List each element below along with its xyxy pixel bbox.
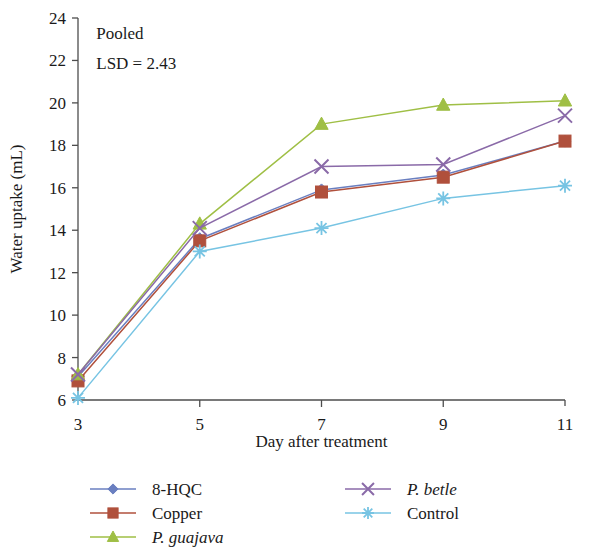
asterisk-shape bbox=[71, 391, 85, 405]
triangle-marker bbox=[558, 94, 571, 106]
y-tick-label-6: 6 bbox=[58, 391, 67, 410]
legend-label: P. betle bbox=[406, 480, 457, 499]
legend-label: 8-HQC bbox=[152, 480, 202, 499]
y-tick-label-10: 10 bbox=[49, 306, 66, 325]
asterisk-shape bbox=[558, 179, 572, 193]
legend-label: Control bbox=[407, 504, 459, 523]
series-p-guajava bbox=[71, 94, 571, 380]
square-marker bbox=[437, 171, 449, 183]
series-p-betle bbox=[71, 109, 572, 382]
line-chart-plot: 681012141618202224357911 PooledLSD = 2.4… bbox=[0, 0, 601, 550]
series-line bbox=[78, 186, 565, 398]
y-tick-label-16: 16 bbox=[49, 179, 66, 198]
annotation-text-1: LSD = 2.43 bbox=[96, 54, 176, 73]
axes-group: 681012141618202224357911 bbox=[49, 9, 573, 434]
cross-marker bbox=[558, 109, 572, 123]
cross-shape bbox=[558, 109, 572, 123]
series-line bbox=[78, 101, 565, 375]
y-tick-label-20: 20 bbox=[49, 94, 66, 113]
series-line bbox=[78, 141, 565, 377]
asterisk-marker bbox=[436, 191, 450, 205]
x-tick-label-11: 11 bbox=[557, 415, 573, 434]
asterisk-shape bbox=[193, 244, 207, 258]
square-shape bbox=[437, 171, 449, 183]
series-8-hqc bbox=[72, 135, 571, 383]
legend-item-p-guajava[interactable]: P. guajava bbox=[90, 528, 223, 547]
asterisk-marker bbox=[362, 507, 374, 519]
y-tick-label-14: 14 bbox=[49, 221, 67, 240]
legend-item-control[interactable]: Control bbox=[345, 504, 459, 523]
triangle-shape bbox=[558, 94, 571, 106]
asterisk-shape bbox=[436, 191, 450, 205]
legend-item-p-betle[interactable]: P. betle bbox=[345, 480, 457, 499]
y-tick-label-22: 22 bbox=[49, 51, 66, 70]
square-marker bbox=[316, 186, 328, 198]
x-tick-label-3: 3 bbox=[74, 415, 83, 434]
y-axis-title: Water uptake (mL) bbox=[7, 145, 26, 274]
square-shape bbox=[559, 135, 571, 147]
legend-item-copper[interactable]: Copper bbox=[90, 504, 202, 523]
x-tick-label-5: 5 bbox=[196, 415, 205, 434]
diamond-shape bbox=[108, 484, 118, 494]
y-tick-label-12: 12 bbox=[49, 264, 66, 283]
chart-legend: 8-HQCCopperP. guajavaP. betleControl bbox=[90, 480, 459, 547]
asterisk-shape bbox=[362, 507, 374, 519]
annotation-text-0: Pooled bbox=[96, 24, 144, 43]
series-group bbox=[71, 94, 572, 405]
asterisk-marker bbox=[71, 391, 85, 405]
y-tick-label-24: 24 bbox=[49, 9, 67, 28]
legend-label: P. guajava bbox=[151, 528, 223, 547]
y-tick-label-8: 8 bbox=[58, 349, 67, 368]
series-copper bbox=[72, 135, 571, 387]
y-tick-label-18: 18 bbox=[49, 136, 66, 155]
legend-label: Copper bbox=[152, 504, 202, 523]
chart-figure: 681012141618202224357911 PooledLSD = 2.4… bbox=[0, 0, 601, 550]
asterisk-marker bbox=[558, 179, 572, 193]
series-line bbox=[78, 116, 565, 375]
asterisk-shape bbox=[315, 221, 329, 235]
square-shape bbox=[108, 508, 118, 518]
square-marker bbox=[559, 135, 571, 147]
x-axis-title: Day after treatment bbox=[255, 432, 387, 451]
square-marker bbox=[108, 508, 118, 518]
asterisk-marker bbox=[193, 244, 207, 258]
square-shape bbox=[316, 186, 328, 198]
legend-item-8-hqc[interactable]: 8-HQC bbox=[90, 480, 202, 499]
x-tick-label-9: 9 bbox=[439, 415, 448, 434]
annotation-group: PooledLSD = 2.43 bbox=[96, 24, 176, 73]
series-line bbox=[78, 141, 565, 381]
asterisk-marker bbox=[315, 221, 329, 235]
diamond-marker bbox=[108, 484, 118, 494]
